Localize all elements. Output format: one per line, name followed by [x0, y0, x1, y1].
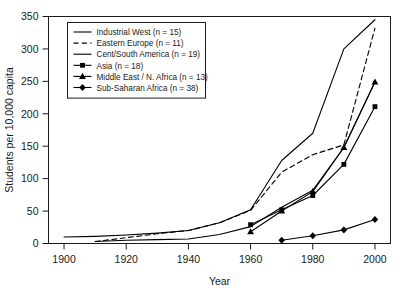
series-line-4: [251, 82, 375, 232]
data-point-marker: [340, 144, 347, 150]
x-axis-title: Year: [209, 275, 231, 287]
y-tick-label: 50: [27, 205, 39, 217]
chart-legend: Industrial West (n = 15)Eastern Europe (…: [68, 23, 209, 99]
x-tick-label: 1920: [115, 253, 139, 265]
series-line-2: [95, 82, 375, 242]
data-point-marker: [248, 222, 253, 227]
chart-canvas: 190019201940196019802000 050100150200250…: [0, 0, 406, 291]
y-tick-label: 250: [21, 75, 39, 87]
data-point-marker: [372, 216, 379, 223]
line-chart: 190019201940196019802000 050100150200250…: [0, 0, 406, 291]
data-point-marker: [341, 162, 346, 167]
y-axis-tick-labels: 050100150200250300350: [21, 10, 39, 249]
x-axis-ticks: [64, 244, 375, 250]
legend-label: Asia (n = 18): [97, 62, 144, 71]
series-line-5: [282, 220, 375, 241]
y-tick-label: 200: [21, 108, 39, 120]
x-tick-label: 1960: [239, 253, 263, 265]
x-axis-tick-labels: 190019201940196019802000: [52, 253, 386, 265]
y-axis-title: Students per 10,000 capita: [3, 67, 15, 193]
data-point-marker: [310, 232, 317, 239]
y-tick-label: 100: [21, 172, 39, 184]
data-point-marker: [373, 104, 378, 109]
series-4: [247, 78, 378, 234]
x-tick-label: 1900: [52, 253, 76, 265]
series-5: [278, 216, 378, 244]
legend-label: Eastern Europe (n = 11): [97, 39, 184, 48]
y-tick-label: 300: [21, 43, 39, 55]
x-tick-label: 1980: [301, 253, 325, 265]
series-2: [95, 82, 375, 242]
x-tick-label: 1940: [177, 253, 201, 265]
series-line-3: [251, 107, 375, 225]
y-axis-ticks: [43, 17, 49, 244]
legend-label: Industrial West (n = 15): [97, 28, 182, 37]
x-tick-label: 2000: [363, 253, 387, 265]
legend-marker: [80, 63, 85, 68]
legend-label: Cent/South America (n = 19): [97, 50, 201, 59]
y-tick-label: 350: [21, 10, 39, 22]
y-tick-label: 150: [21, 140, 39, 152]
y-tick-label: 0: [33, 237, 39, 249]
data-point-marker: [278, 237, 285, 244]
data-point-marker: [247, 228, 254, 234]
series-3: [248, 104, 377, 227]
legend-label: Middle East / N. Africa (n = 13): [97, 73, 209, 82]
data-point-marker: [372, 78, 379, 84]
data-point-marker: [341, 226, 348, 233]
legend-label: Sub-Saharan Africa (n = 38): [97, 84, 199, 93]
